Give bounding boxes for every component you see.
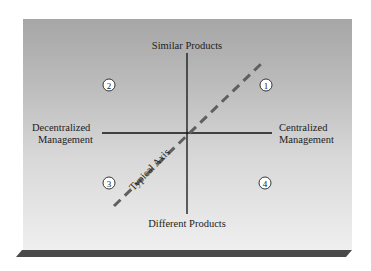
quadrant-marker-4: 4 <box>259 177 271 189</box>
quadrant-marker-3: 3 <box>103 177 115 189</box>
typical-axis-label: Typical Axis <box>127 147 172 193</box>
quadrant-diagram: Similar Products Different Products Dece… <box>0 0 371 271</box>
quadrant-number: 4 <box>263 179 268 189</box>
quadrant-marker-2: 2 <box>103 79 115 91</box>
quadrant-number: 3 <box>107 179 112 189</box>
panel-shadow <box>16 250 352 257</box>
axis-label-right-1: Centralized <box>279 122 328 133</box>
axis-label-left-2: Management <box>38 134 93 145</box>
quadrant-marker-1: 1 <box>260 79 272 91</box>
quadrant-number: 2 <box>107 81 112 91</box>
axis-label-left-1: Decentralized <box>32 122 91 133</box>
quadrant-number: 1 <box>264 81 269 91</box>
axis-label-right-2: Management <box>279 134 334 145</box>
axis-label-bottom: Different Products <box>148 218 226 229</box>
axis-label-top: Similar Products <box>152 40 222 51</box>
